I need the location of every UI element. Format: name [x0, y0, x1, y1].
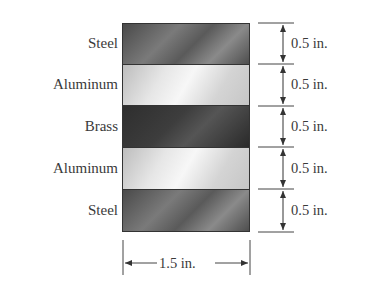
thickness-label-2: 0.5 in. — [291, 76, 328, 93]
thickness-label-5: 0.5 in. — [291, 202, 328, 219]
thickness-label-3: 0.5 in. — [291, 118, 328, 135]
width-label: 1.5 in. — [157, 255, 198, 272]
thickness-label-4: 0.5 in. — [291, 160, 328, 177]
thickness-label-1: 0.5 in. — [291, 35, 328, 52]
